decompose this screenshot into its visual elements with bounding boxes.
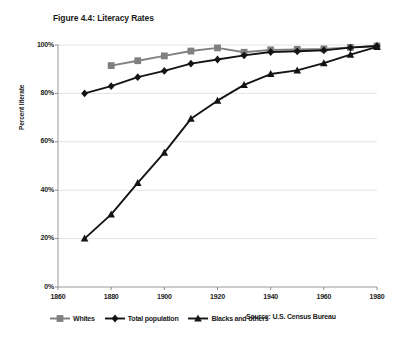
gridlines <box>58 45 377 239</box>
data-point-marker-diamond <box>134 73 141 81</box>
data-point-marker-diamond <box>81 90 88 98</box>
legend-item-label: Total population <box>128 315 179 322</box>
data-point-marker-square <box>214 45 221 52</box>
data-point-marker-square <box>134 57 141 64</box>
legend-marker-square-icon <box>50 313 70 324</box>
series-line <box>85 47 377 239</box>
data-point-marker-diamond <box>111 315 118 323</box>
legend-item-label: Whites <box>73 315 95 322</box>
data-point-marker-square <box>161 52 168 59</box>
chart-plot-area <box>0 0 401 342</box>
data-point-marker-diamond <box>161 67 168 75</box>
legend-marker-diamond-icon <box>105 313 125 324</box>
legend-item-whites[interactable]: Whites <box>50 313 95 324</box>
data-point-marker-diamond <box>214 56 221 64</box>
data-point-marker-diamond <box>108 82 115 90</box>
data-point-marker-square <box>57 315 64 322</box>
chart-legend: WhitesTotal populationBlacks and others <box>50 313 268 324</box>
series-line <box>85 46 377 93</box>
data-point-marker-diamond <box>188 60 195 68</box>
figure-container: Figure 4.4: Literacy Rates Percent liter… <box>0 0 401 342</box>
data-point-marker-square <box>188 48 195 55</box>
legend-marker-triangle-icon <box>188 313 208 324</box>
data-point-marker-square <box>108 62 115 69</box>
legend-item-total-population[interactable]: Total population <box>105 313 179 324</box>
axis-lines <box>55 45 377 290</box>
source-note: Source: U.S. Census Bureau <box>246 313 336 320</box>
